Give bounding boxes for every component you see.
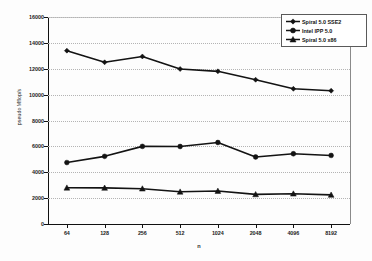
legend-entry[interactable]: Intel IPP 5.0 (284, 26, 364, 35)
y-axis-tick-labels: 0200040006000800010000120001400016000 (0, 17, 44, 224)
chart-legend: Spiral 5.0 SSE2Intel IPP 5.0Spiral 5.0 x… (281, 14, 367, 47)
y-axis-tick-label: 12000 (4, 66, 44, 72)
y-axis-tick-label: 4000 (4, 169, 44, 175)
legend-label: Spiral 5.0 x86 (302, 37, 336, 43)
legend-label: Intel IPP 5.0 (302, 28, 332, 34)
x-axis-tick-label: 256 (122, 230, 162, 236)
data-point (102, 60, 107, 65)
legend-label: Spiral 5.0 SSE2 (302, 19, 341, 25)
x-axis-tick-mark (105, 224, 106, 228)
series-3 (64, 185, 334, 197)
legend-marker-icon (285, 17, 301, 26)
x-axis-tick-labels: 641282565121024204840968192 (48, 230, 350, 242)
y-axis-tick-label: 14000 (4, 40, 44, 46)
x-axis-tick-label: 1024 (198, 230, 238, 236)
x-axis-tick-mark (331, 224, 332, 228)
data-point (140, 144, 145, 149)
data-point (253, 155, 258, 160)
x-axis-tick-label: 64 (47, 230, 87, 236)
plot-area (48, 17, 350, 224)
data-point (178, 67, 183, 72)
data-point (329, 88, 334, 93)
plot-border-right (350, 17, 351, 224)
x-axis-tick-mark (67, 224, 68, 228)
y-axis-tick-label: 2000 (4, 195, 44, 201)
data-point (291, 86, 296, 91)
x-axis-tick-mark (218, 224, 219, 228)
data-point (102, 154, 107, 159)
x-axis-tick-label: 128 (85, 230, 125, 236)
gridline (48, 224, 350, 225)
series-1 (64, 48, 333, 93)
y-axis-tick-label: 6000 (4, 143, 44, 149)
data-point (291, 151, 296, 156)
x-axis-tick-mark (293, 224, 294, 228)
data-point (253, 77, 258, 82)
data-point (64, 48, 69, 53)
x-axis-tick-mark (256, 224, 257, 228)
legend-entry[interactable]: Spiral 5.0 x86 (284, 35, 364, 44)
x-axis-tick-label: 8192 (311, 230, 351, 236)
chart-container: pseudo Mflop/s 0200040006000800010000120… (0, 0, 372, 261)
data-point (178, 144, 183, 149)
x-axis-tick-label: 512 (160, 230, 200, 236)
x-axis-title: n (48, 243, 350, 249)
x-axis-tick-mark (142, 224, 143, 228)
data-point (64, 160, 69, 165)
x-axis-tick-label: 4096 (273, 230, 313, 236)
y-axis-tick-label: 16000 (4, 14, 44, 20)
series-line (67, 51, 331, 91)
data-point (215, 69, 220, 74)
data-point (329, 153, 334, 158)
x-axis-tick-mark (180, 224, 181, 228)
data-point (215, 140, 220, 145)
legend-marker-icon (285, 35, 301, 44)
data-point (140, 54, 145, 59)
series-2 (64, 140, 333, 165)
series-layer (48, 17, 350, 224)
legend-entry[interactable]: Spiral 5.0 SSE2 (284, 17, 364, 26)
x-axis-tick-label: 2048 (236, 230, 276, 236)
y-axis-tick-label: 8000 (4, 118, 44, 124)
y-axis-tick-label: 10000 (4, 92, 44, 98)
y-axis-tick-label: 0 (4, 221, 44, 227)
legend-marker-icon (285, 26, 301, 35)
